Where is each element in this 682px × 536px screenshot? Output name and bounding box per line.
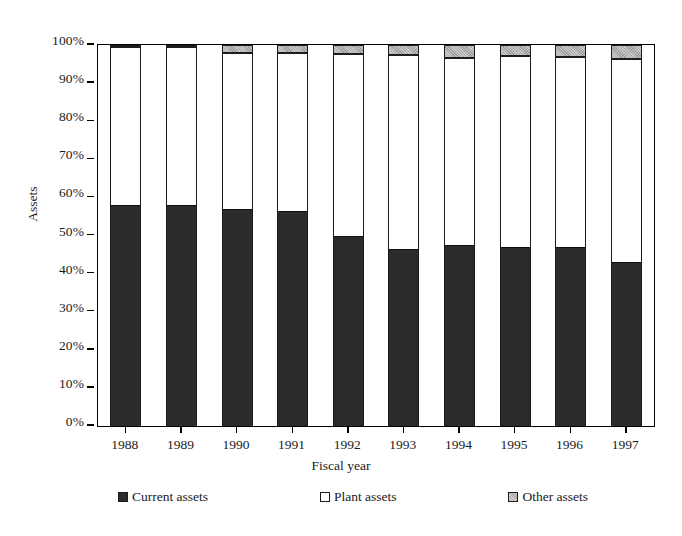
x-axis-tick-label: 1991 — [262, 437, 322, 453]
y-axis-tick-label: 50% — [59, 225, 84, 239]
bar-segment-current-assets — [110, 205, 141, 426]
y-axis-tick-label: 0% — [66, 415, 84, 429]
bar-segment-plant-assets — [333, 54, 364, 235]
bar-stack — [444, 45, 475, 426]
x-axis-tick-label: 1990 — [206, 437, 266, 453]
y-axis-tick-label: 60% — [59, 186, 84, 200]
y-axis-tick-mark — [87, 158, 94, 159]
y-axis-tick-mark — [87, 196, 94, 197]
x-axis-tick-mark — [125, 426, 126, 433]
bar-segment-other-assets — [555, 45, 586, 57]
x-axis-tick-mark — [236, 426, 237, 433]
legend-label: Plant assets — [334, 489, 397, 505]
bar-segment-plant-assets — [555, 57, 586, 247]
bar-stack — [388, 45, 419, 426]
y-axis-tick-label: 80% — [59, 110, 84, 124]
x-axis-tick-mark — [403, 426, 404, 433]
y-axis-tick-mark — [87, 348, 94, 349]
legend-item-other-assets[interactable]: Other assets — [508, 489, 588, 505]
bar-segment-current-assets — [611, 262, 642, 426]
bar-stack — [110, 45, 141, 426]
legend-swatch-icon — [118, 492, 128, 502]
stacked-bar-chart: 0%10%20%30%40%50%60%70%80%90%100% Assets… — [0, 0, 682, 536]
x-axis-tick-label: 1995 — [484, 437, 544, 453]
legend-item-plant-assets[interactable]: Plant assets — [320, 489, 397, 505]
y-axis-tick-mark — [87, 272, 94, 273]
y-axis-tick-label: 30% — [59, 301, 84, 315]
y-axis-tick-mark — [87, 234, 94, 235]
y-axis-tick-mark — [87, 43, 94, 44]
x-axis-tick-label: 1988 — [95, 437, 155, 453]
x-axis-tick-mark — [180, 426, 181, 433]
bar-stack — [277, 45, 308, 426]
y-axis-tick-mark — [87, 310, 94, 311]
y-axis: 0%10%20%30%40%50%60%70%80%90%100% — [0, 0, 97, 470]
bar-segment-current-assets — [388, 249, 419, 426]
x-axis-tick-label: 1997 — [595, 437, 655, 453]
bar-segment-current-assets — [555, 247, 586, 426]
bar-segment-other-assets — [277, 45, 308, 53]
x-axis-tick-mark — [570, 426, 571, 433]
y-axis-tick-mark — [87, 120, 94, 121]
x-axis-title: Fiscal year — [0, 458, 682, 474]
y-axis-tick-label: 40% — [59, 263, 84, 277]
bar-segment-other-assets — [611, 45, 642, 59]
bar-segment-plant-assets — [166, 47, 197, 205]
y-axis-tick-label: 90% — [59, 72, 84, 86]
bar-segment-plant-assets — [277, 53, 308, 211]
bar-stack — [333, 45, 364, 426]
bar-segment-current-assets — [444, 245, 475, 426]
bar-segment-plant-assets — [444, 58, 475, 245]
legend-swatch-icon — [508, 492, 518, 502]
x-axis-tick-mark — [625, 426, 626, 433]
legend-label: Current assets — [132, 489, 208, 505]
bar-segment-plant-assets — [110, 47, 141, 205]
bar-segment-plant-assets — [500, 56, 531, 247]
y-axis-tick-label: 70% — [59, 148, 84, 162]
y-axis-tick-mark — [87, 386, 94, 387]
legend-swatch-icon — [320, 492, 330, 502]
legend-label: Other assets — [522, 489, 588, 505]
bar-segment-other-assets — [333, 45, 364, 54]
x-axis-tick-mark — [292, 426, 293, 433]
bar-stack — [222, 45, 253, 426]
y-axis-tick-mark — [87, 81, 94, 82]
x-axis-tick-label: 1994 — [428, 437, 488, 453]
x-axis-tick-label: 1996 — [540, 437, 600, 453]
x-axis-tick-mark — [347, 426, 348, 433]
bar-segment-other-assets — [444, 45, 475, 58]
y-axis-tick-label: 100% — [52, 34, 84, 48]
bar-segment-other-assets — [500, 45, 531, 56]
y-axis-tick-label: 20% — [59, 339, 84, 353]
bar-segment-current-assets — [166, 205, 197, 426]
bar-stack — [166, 45, 197, 426]
bar-stack — [555, 45, 586, 426]
bar-segment-plant-assets — [388, 55, 419, 249]
bar-segment-plant-assets — [611, 59, 642, 262]
bar-segment-other-assets — [222, 45, 253, 53]
bar-segment-current-assets — [333, 236, 364, 427]
y-axis-tick-mark — [87, 424, 94, 425]
x-axis-tick-label: 1989 — [150, 437, 210, 453]
chart-legend: Current assetsPlant assetsOther assets — [118, 489, 588, 505]
x-axis-tick-mark — [514, 426, 515, 433]
y-axis-title: Assets — [25, 164, 41, 244]
bar-stack — [611, 45, 642, 426]
bar-segment-other-assets — [388, 45, 419, 55]
bar-stack — [500, 45, 531, 426]
x-axis-tick-label: 1992 — [317, 437, 377, 453]
x-axis-tick-label: 1993 — [373, 437, 433, 453]
bar-segment-plant-assets — [222, 53, 253, 209]
x-axis-tick-mark — [458, 426, 459, 433]
bar-segment-current-assets — [277, 211, 308, 426]
bar-segment-current-assets — [500, 247, 531, 426]
plot-area — [97, 44, 655, 427]
y-axis-tick-label: 10% — [59, 377, 84, 391]
bar-segment-current-assets — [222, 209, 253, 426]
legend-item-current-assets[interactable]: Current assets — [118, 489, 208, 505]
